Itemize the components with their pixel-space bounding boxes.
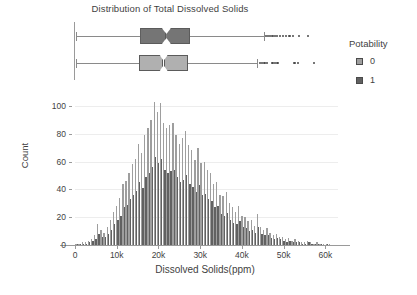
bar-series-1-bin-13 — [117, 220, 118, 245]
bar-series-1-bin-53 — [243, 227, 244, 245]
y-axis-label: Count — [19, 126, 30, 186]
legend-label-0: 0 — [370, 56, 375, 66]
bar-series-1-bin-29 — [167, 173, 168, 245]
x-tick-label-20k: 20k — [138, 250, 178, 260]
y-tick-mark-0 — [69, 245, 72, 246]
bar-series-1-bin-43 — [211, 201, 212, 245]
bar-series-1-bin-60 — [264, 235, 265, 245]
x-tick-label-50k: 50k — [264, 250, 304, 260]
x-tick-label-10k: 10k — [97, 250, 137, 260]
gridline-y-100 — [75, 106, 338, 107]
bar-series-1-bin-19 — [136, 191, 137, 245]
y-tick-label-0: 0 — [40, 240, 66, 250]
bar-series-1-bin-9 — [105, 237, 106, 245]
y-tick-mark-80 — [69, 134, 72, 135]
bar-series-1-bin-21 — [142, 188, 143, 245]
bar-series-1-bin-57 — [255, 233, 256, 246]
bar-series-1-bin-17 — [130, 199, 131, 245]
x-tick-label-0: 0 — [55, 250, 95, 260]
bar-series-1-bin-33 — [180, 182, 181, 245]
bar-series-1-bin-14 — [120, 216, 121, 245]
bar-series-1-bin-44 — [214, 207, 215, 245]
bar-series-1-bin-8 — [102, 237, 103, 245]
bar-series-1-bin-64 — [277, 238, 278, 245]
boxplot-cap-low-0 — [76, 59, 77, 68]
legend-title: Potability — [349, 38, 417, 49]
bar-series-1-bin-12 — [114, 224, 115, 245]
boxplot-whisker-low-1 — [76, 36, 140, 37]
legend-item-0[interactable]: 0 — [349, 56, 417, 66]
legend-swatch-icon-0 — [356, 58, 363, 65]
legend-swatch-icon-1 — [356, 77, 363, 84]
plot-area — [75, 99, 338, 245]
bar-series-1-bin-35 — [186, 175, 187, 245]
x-tick-mark-40k — [242, 246, 243, 249]
y-tick-label-80: 80 — [40, 129, 66, 139]
y-tick-label-100: 100 — [40, 101, 66, 111]
boxplot-box-left-0[interactable] — [139, 55, 164, 71]
boxplot-outlier-1-6 — [276, 35, 278, 37]
bar-series-1-bin-47 — [224, 216, 225, 245]
gridline-y-80 — [75, 134, 338, 135]
bar-series-1-bin-62 — [271, 238, 272, 245]
x-tick-label-40k: 40k — [222, 250, 262, 260]
bar-series-1-bin-49 — [230, 220, 231, 245]
bar-series-1-bin-42 — [208, 199, 209, 245]
x-axis-label: Dissolved Solids(ppm) — [60, 264, 350, 275]
y-tick-mark-40 — [69, 189, 72, 190]
y-tick-mark-20 — [69, 217, 72, 218]
bar-series-1-bin-15 — [124, 207, 125, 245]
bar-series-1-bin-59 — [261, 234, 262, 245]
bar-series-1-bin-36 — [189, 184, 190, 245]
boxplot-box-right-0[interactable] — [164, 55, 189, 71]
bar-series-1-bin-54 — [246, 228, 247, 245]
boxplot-outlier-1-13 — [307, 35, 309, 37]
x-tick-label-30k: 30k — [180, 250, 220, 260]
boxplot-outlier-1-8 — [282, 35, 284, 37]
boxplot-outlier-1-9 — [285, 35, 287, 37]
boxplot-whisker-high-0 — [188, 63, 257, 64]
x-tick-label-60k: 60k — [305, 250, 345, 260]
histogram-panel: Count Dissolved Solids(ppm) 020406080100… — [0, 88, 417, 295]
bar-series-1-bin-10 — [108, 234, 109, 245]
bar-series-1-bin-31 — [174, 170, 175, 245]
boxplot-outlier-1-10 — [288, 35, 290, 37]
bar-series-1-bin-18 — [133, 195, 134, 245]
boxplot-box-left-1[interactable] — [140, 28, 166, 44]
y-tick-label-20: 20 — [40, 212, 66, 222]
gridline-y-60 — [75, 162, 338, 163]
bar-series-1-bin-48 — [227, 213, 228, 245]
y-tick-mark-100 — [69, 106, 72, 107]
bar-series-1-bin-38 — [196, 192, 197, 245]
bar-series-1-bin-39 — [199, 185, 200, 245]
legend-label-1: 1 — [370, 75, 375, 85]
bar-series-1-bin-51 — [236, 224, 237, 245]
boxplot-box-right-1[interactable] — [166, 28, 190, 44]
bar-series-1-bin-20 — [139, 182, 140, 245]
bar-series-1-bin-7 — [98, 234, 99, 245]
y-tick-label-40: 40 — [40, 184, 66, 194]
bar-series-1-bin-24 — [152, 167, 153, 245]
bar-series-1-bin-28 — [164, 170, 165, 245]
bar-series-1-bin-34 — [183, 180, 184, 245]
x-tick-mark-20k — [158, 246, 159, 249]
bar-series-1-bin-46 — [221, 214, 222, 245]
bar-series-1-bin-27 — [161, 159, 162, 245]
boxplot-outlier-0-6 — [276, 62, 278, 64]
y-tick-mark-60 — [69, 162, 72, 163]
boxplot-outlier-0-9 — [313, 62, 315, 64]
boxplot-whisker-high-1 — [190, 36, 263, 37]
boxplot-cap-low-1 — [76, 32, 77, 41]
legend: Potability 0 1 — [349, 38, 417, 94]
bar-series-1-bin-37 — [192, 187, 193, 245]
x-tick-mark-0 — [75, 246, 76, 249]
boxplot-axis-spine — [74, 22, 75, 80]
bar-series-1-bin-26 — [158, 163, 159, 245]
x-tick-mark-50k — [284, 246, 285, 249]
boxplot-outlier-1-7 — [279, 35, 281, 37]
bar-series-1-bin-25 — [155, 157, 156, 245]
legend-item-1[interactable]: 1 — [349, 75, 417, 85]
bar-series-1-bin-45 — [217, 206, 218, 245]
chart-title: Distribution of Total Dissolved Solids — [0, 3, 340, 14]
bar-series-1-bin-11 — [111, 230, 112, 245]
